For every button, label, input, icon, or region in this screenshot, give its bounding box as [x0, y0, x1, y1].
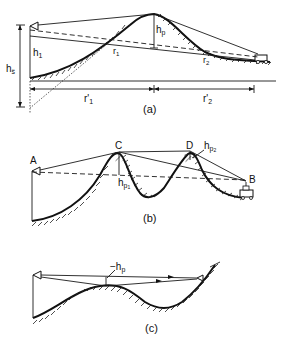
- transmitter-antenna-icon: [33, 271, 41, 279]
- label-hp2: hp2: [204, 140, 216, 153]
- transmitter-antenna-icon: [32, 167, 40, 175]
- caption-b: (b): [143, 212, 156, 224]
- direct-line-dashed: [30, 30, 258, 57]
- caption-c: (c): [145, 322, 158, 334]
- label-r1: r1: [113, 46, 120, 57]
- ray-C-B: [119, 152, 246, 181]
- direct-line-A-B: [32, 172, 246, 180]
- label-hs: hs̈: [6, 63, 16, 75]
- propagation-diagram: hp h1 hs̈ r1 r2 r'1 r'2 (a): [0, 0, 287, 343]
- label-r2: r2: [203, 55, 210, 66]
- ray-C-D: [119, 151, 190, 152]
- ray-tx-to-obstacle: [41, 277, 106, 286]
- label-B: B: [249, 174, 256, 185]
- label-C: C: [115, 140, 122, 151]
- panel-a: hp h1 hs̈ r1 r2 r'1 r'2 (a): [6, 14, 276, 115]
- terrain-hatching: [32, 155, 244, 226]
- vehicle-receiver-icon: [240, 186, 253, 200]
- label-neg-hp: −hp: [110, 261, 125, 274]
- terrain-hatching: [32, 14, 271, 80]
- ray-peak-to-rx: [154, 14, 258, 54]
- label-A: A: [30, 155, 37, 166]
- ray-obstacle-to-rx: [106, 279, 197, 286]
- label-r1-prime: r'1: [84, 93, 93, 105]
- receiver-antenna-icon: [197, 275, 203, 281]
- terrain-hill: [30, 14, 270, 78]
- panel-c: −hp (c): [33, 261, 220, 334]
- caption-a: (a): [143, 103, 156, 115]
- label-hp1: hp1: [118, 177, 130, 190]
- direct-ray: [41, 275, 197, 278]
- panel-b: A B C D hp1 hp2 (b): [30, 140, 256, 226]
- label-D: D: [186, 140, 193, 151]
- label-r2-prime: r'2: [203, 93, 212, 105]
- label-hp: hp: [156, 24, 166, 37]
- transmitter-antenna-icon: [30, 22, 38, 30]
- label-h1: h1: [33, 47, 43, 59]
- ray-D-B: [190, 151, 246, 181]
